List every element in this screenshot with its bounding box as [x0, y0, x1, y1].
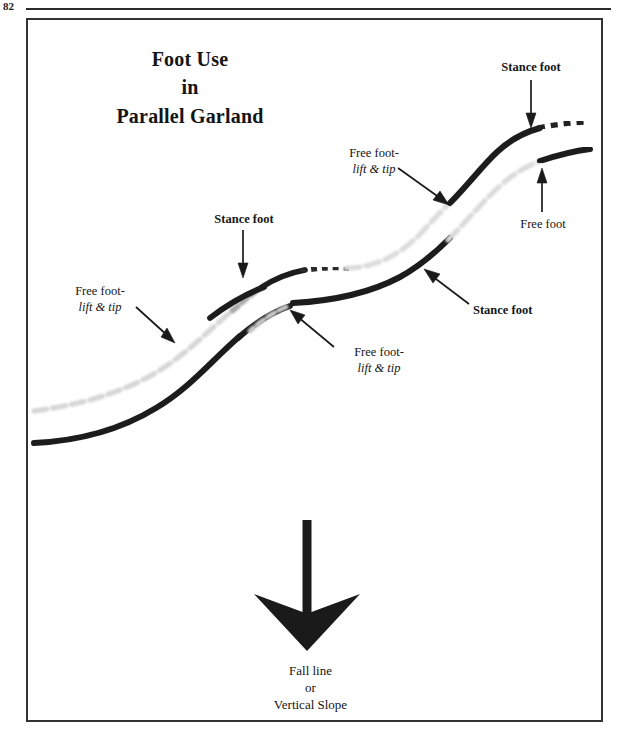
annotation-free-foot-lift-tip-middle: Free foot- lift & tip [331, 345, 427, 377]
header-rule [26, 8, 611, 10]
figure-title-line-3: Parallel Garland [60, 102, 320, 130]
annotation-line-1: Free foot- [331, 345, 427, 361]
annotation-line-2: lift & tip [324, 162, 424, 178]
annotation-stance-foot-left: Stance foot [192, 212, 296, 228]
annotation-free-foot-right: Free foot [503, 217, 583, 233]
fall-line-caption-line-1: Fall line [238, 662, 383, 679]
fall-line-caption-line-2: or [238, 679, 383, 696]
annotation-stance-foot-top-right: Stance foot [479, 60, 583, 76]
figure-title: Foot Use in Parallel Garland [60, 45, 320, 130]
annotation-line-2: lift & tip [331, 361, 427, 377]
annotation-line-1: Free foot [503, 217, 583, 233]
annotation-free-foot-lift-tip-upper: Free foot- lift & tip [324, 146, 424, 178]
annotation-free-foot-lift-tip-left: Free foot- lift & tip [44, 284, 156, 316]
annotation-line-2: lift & tip [44, 300, 156, 316]
figure-title-line-2: in [60, 73, 320, 101]
fall-line-caption: Fall line or Vertical Slope [238, 662, 383, 713]
annotation-stance-foot-right: Stance foot [473, 303, 583, 319]
annotation-line-1: Stance foot [479, 60, 583, 76]
annotation-line-1: Free foot- [324, 146, 424, 162]
annotation-line-1: Stance foot [473, 303, 583, 319]
annotation-line-1: Free foot- [44, 284, 156, 300]
page-number: 82 [3, 0, 14, 12]
fall-line-caption-line-3: Vertical Slope [238, 696, 383, 713]
annotation-line-1: Stance foot [192, 212, 296, 228]
figure-title-line-1: Foot Use [60, 45, 320, 73]
